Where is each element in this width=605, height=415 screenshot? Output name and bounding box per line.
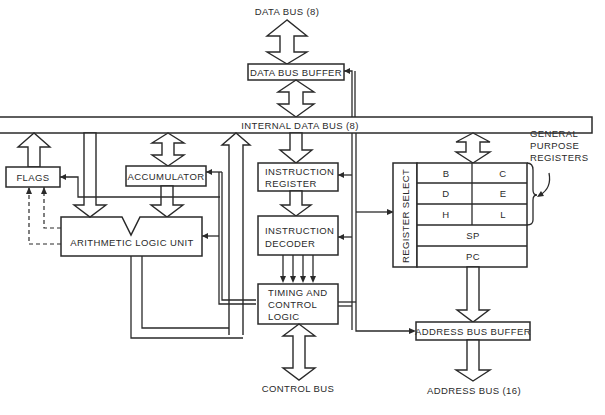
data-bus-label: DATA BUS (8) xyxy=(255,6,320,17)
register-c: C xyxy=(499,168,506,179)
cpu-block-diagram: DATA BUS (8) DATA BUS BUFFER INTERNAL DA… xyxy=(0,0,605,415)
timing-label-3: LOGIC xyxy=(268,311,300,322)
annotation-line-2: PURPOSE xyxy=(530,140,579,151)
control-bus-label: CONTROL BUS xyxy=(262,383,335,394)
register-h: H xyxy=(442,209,449,220)
instruction-register-block: INSTRUCTION REGISTER xyxy=(258,133,352,191)
register-e: E xyxy=(500,188,507,199)
instruction-decoder-label-2: DECODER xyxy=(265,238,315,249)
timing-label-2: CONTROL xyxy=(268,299,317,310)
instruction-register-label-1: INSTRUCTION xyxy=(265,166,334,177)
register-d: D xyxy=(442,188,449,199)
address-bus-buffer-block: ADDRESS BUS BUFFER xyxy=(415,322,531,340)
address-bus-arrow xyxy=(456,340,490,381)
annotation-line-1: GENERAL xyxy=(530,128,578,139)
control-bus-arrow xyxy=(283,324,315,380)
internal-data-bus-label: INTERNAL DATA BUS (8) xyxy=(241,120,359,131)
decoder-to-timing-arrows xyxy=(280,255,316,283)
flags-block: FLAGS xyxy=(6,133,60,187)
register-file: REGISTER SELECT B C D E H L SP PC xyxy=(393,133,527,267)
data-bus-buffer-label: DATA BUS BUFFER xyxy=(250,67,342,78)
flags-label: FLAGS xyxy=(16,172,49,183)
buffer-to-internal-bus-arrow xyxy=(278,80,314,117)
accumulator-label: ACCUMULATOR xyxy=(128,171,205,182)
register-l: L xyxy=(500,209,506,220)
register-b: B xyxy=(443,168,450,179)
accumulator-block: ACCUMULATOR xyxy=(126,133,206,217)
alu-block: ARITHMETIC LOGIC UNIT xyxy=(61,217,202,256)
external-data-bus-arrow xyxy=(267,20,307,64)
register-sp: SP xyxy=(466,230,479,241)
data-bus-buffer-block: DATA BUS BUFFER xyxy=(248,64,344,80)
instruction-decoder-label-1: INSTRUCTION xyxy=(265,225,334,236)
instruction-decoder-block: INSTRUCTION DECODER xyxy=(258,216,352,255)
timing-control-block: TIMING AND CONTROL LOGIC xyxy=(258,284,356,324)
address-bus-label: ADDRESS BUS (16) xyxy=(427,385,521,396)
internal-data-bus: INTERNAL DATA BUS (8) xyxy=(0,117,592,133)
timing-label-1: TIMING AND xyxy=(268,287,327,298)
general-purpose-registers-annotation: GENERAL PURPOSE REGISTERS xyxy=(527,128,589,225)
instruction-register-label-2: REGISTER xyxy=(265,178,317,189)
alu-label: ARITHMETIC LOGIC UNIT xyxy=(70,237,193,248)
annotation-line-3: REGISTERS xyxy=(530,152,589,163)
register-pc: PC xyxy=(466,251,480,262)
register-select-label: REGISTER SELECT xyxy=(400,169,411,263)
address-bus-buffer-label: ADDRESS BUS BUFFER xyxy=(415,326,531,337)
